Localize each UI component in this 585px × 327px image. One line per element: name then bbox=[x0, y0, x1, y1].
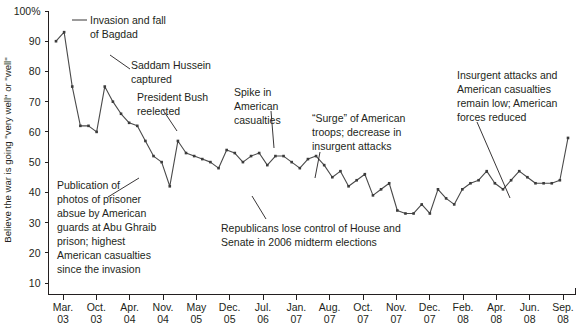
x-axis-tick-label-month: Dec. bbox=[419, 301, 441, 313]
leader-attacks-remain-low bbox=[477, 122, 510, 198]
chart-container: Believe the war is going "very well" or … bbox=[0, 0, 585, 327]
x-axis-tick-label-month: Jun. bbox=[520, 301, 540, 313]
annotation-line: “Surge” of American bbox=[312, 112, 406, 124]
x-axis-tick-label-year: 07 bbox=[290, 313, 302, 325]
x-axis-tick-label-month: Apr. bbox=[487, 301, 506, 313]
annotation-line: reelected bbox=[137, 105, 180, 117]
x-axis-tick-label-month: Sep. bbox=[552, 301, 574, 313]
data-point bbox=[201, 158, 204, 161]
annotation-line: President Bush bbox=[137, 91, 208, 103]
data-point bbox=[299, 167, 302, 170]
data-point bbox=[429, 212, 432, 215]
leader-saddam-captured bbox=[110, 55, 130, 69]
data-point bbox=[258, 152, 261, 155]
annotation-invasion-fall-baghdad: Invasion and fall of Bagdad bbox=[90, 14, 166, 40]
annotation-abu-ghraib: Publication of photos of prisoner absue … bbox=[57, 179, 156, 275]
y-axis-tick-label: 50 bbox=[29, 156, 41, 168]
data-point bbox=[55, 40, 58, 43]
data-point bbox=[355, 179, 358, 182]
x-axis-tick-label-year: 08 bbox=[557, 313, 569, 325]
annotation-line: insurgent attacks bbox=[312, 140, 391, 152]
y-axis-tick-label: 90 bbox=[29, 35, 41, 47]
annotation-line: absue by American bbox=[57, 207, 146, 219]
y-axis-tick-label: 10 bbox=[29, 277, 41, 289]
data-point bbox=[567, 137, 570, 140]
x-axis-tick-label-month: May bbox=[186, 301, 207, 313]
data-point bbox=[404, 212, 407, 215]
x-axis: Mar.03Oct.03Apr.04Nov.04May05Dec.05Jul.0… bbox=[53, 295, 574, 325]
annotation-line: Republicans lose control of House and bbox=[221, 222, 401, 234]
data-point bbox=[152, 155, 155, 158]
data-point bbox=[225, 149, 228, 152]
data-point bbox=[396, 209, 399, 212]
annotation-line: Saddam Hussein bbox=[131, 59, 211, 71]
annotation-line: prison; highest bbox=[57, 235, 125, 247]
data-point bbox=[339, 170, 342, 173]
data-point bbox=[485, 170, 488, 173]
data-point bbox=[502, 188, 505, 191]
y-axis-tick-label: 30 bbox=[29, 217, 41, 229]
data-point bbox=[233, 152, 236, 155]
annotation-line: since the invasion bbox=[57, 263, 141, 275]
annotation-line: captured bbox=[131, 73, 172, 85]
data-point bbox=[87, 125, 90, 128]
x-axis-tick-label-month: Mar. bbox=[53, 301, 73, 313]
data-point bbox=[282, 155, 285, 158]
y-axis-tick-label: 100% bbox=[14, 5, 41, 17]
data-point bbox=[494, 182, 497, 185]
x-axis-tick-label-year: 07 bbox=[424, 313, 436, 325]
y-axis-tick-label: 40 bbox=[29, 186, 41, 198]
y-axis-title-text: Believe the war is going "very well" or … bbox=[2, 57, 13, 242]
x-axis-tick-label-year: 05 bbox=[224, 313, 236, 325]
data-point bbox=[266, 164, 269, 167]
x-axis-tick-label-month: Oct. bbox=[353, 301, 372, 313]
annotation-line: troops; decrease in bbox=[312, 126, 401, 138]
data-point bbox=[445, 197, 448, 200]
data-point bbox=[71, 85, 74, 88]
data-point bbox=[315, 155, 318, 158]
annotation-surge: “Surge” of American troops; decrease in … bbox=[312, 112, 406, 152]
annotation-spike-casualties: Spike in American casualties bbox=[234, 86, 281, 126]
y-axis: 102030405060708090100% bbox=[14, 5, 49, 289]
annotation-line: Publication of bbox=[57, 179, 120, 191]
y-axis-tick-label: 60 bbox=[29, 126, 41, 138]
data-point bbox=[177, 140, 180, 143]
data-point bbox=[461, 188, 464, 191]
data-point bbox=[168, 185, 171, 188]
annotation-line: Invasion and fall bbox=[90, 14, 166, 26]
data-point bbox=[128, 122, 131, 125]
data-point bbox=[477, 179, 480, 182]
x-axis-tick-label-month: Nov. bbox=[153, 301, 174, 313]
data-point bbox=[347, 185, 350, 188]
data-point bbox=[331, 176, 334, 179]
data-point bbox=[217, 167, 220, 170]
data-point bbox=[453, 203, 456, 206]
x-axis-tick-label-year: 07 bbox=[357, 313, 369, 325]
data-point bbox=[160, 161, 163, 164]
data-point bbox=[323, 164, 326, 167]
data-point bbox=[242, 161, 245, 164]
annotation-line: of Bagdad bbox=[90, 28, 138, 40]
x-axis-tick-label-year: 07 bbox=[324, 313, 336, 325]
annotation-line: American casualties bbox=[457, 83, 551, 95]
data-point bbox=[510, 179, 513, 182]
annotation-bush-reelected: President Bush reelected bbox=[137, 91, 208, 117]
annotation-attacks-remain-low: Insurgent attacks and American casualtie… bbox=[457, 69, 558, 123]
data-point bbox=[364, 173, 367, 176]
data-point bbox=[144, 140, 147, 143]
x-axis-tick-label-month: Oct. bbox=[87, 301, 106, 313]
annotation-leaders bbox=[72, 20, 510, 219]
x-axis-tick-label-month: Aug. bbox=[319, 301, 341, 313]
x-axis-tick-label-year: 04 bbox=[157, 313, 169, 325]
data-point bbox=[307, 158, 310, 161]
x-axis-tick-label-month: Dec. bbox=[219, 301, 241, 313]
x-axis-tick-label-month: Apr. bbox=[120, 301, 139, 313]
x-axis-tick-label-year: 08 bbox=[524, 313, 536, 325]
data-point bbox=[209, 161, 212, 164]
data-point bbox=[136, 125, 139, 128]
data-point bbox=[95, 131, 98, 134]
data-point bbox=[559, 179, 562, 182]
data-point bbox=[63, 31, 66, 34]
line-chart: Believe the war is going "very well" or … bbox=[0, 0, 585, 327]
x-axis-tick-label-month: Jan. bbox=[286, 301, 306, 313]
